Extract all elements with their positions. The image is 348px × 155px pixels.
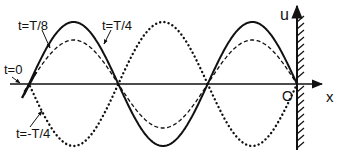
label-t-eighth-period: t=T/8 <box>18 18 48 33</box>
label-u-axis: u <box>280 6 289 23</box>
standing-wave-diagram: t=0 t=T/8 t=T/4 t=-T/4 u x O <box>0 0 348 155</box>
t0-pointer <box>12 77 20 83</box>
fixed-wall <box>297 12 304 150</box>
label-t-quarter-period: t=T/4 <box>102 18 132 33</box>
label-origin: O <box>282 88 293 104</box>
label-t0: t=0 <box>4 62 22 77</box>
tmT4-pointer <box>30 111 42 127</box>
label-t-minus-quarter-period: t=-T/4 <box>16 126 50 141</box>
label-x-axis: x <box>326 88 334 105</box>
